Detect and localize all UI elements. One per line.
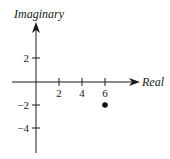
y-tick-label: 2 [24,52,30,64]
x-tick-label: 4 [79,87,85,99]
y-tick-label: −4 [17,122,29,134]
x-tick-label: 2 [56,87,62,99]
y-axis-label: Imaginary [13,7,65,21]
x-axis-label: Real [141,75,165,89]
data-point [102,102,108,108]
x-tick-label: 6 [102,87,108,99]
y-tick-label: −2 [17,99,29,111]
complex-plane-chart: 2 4 6 2 −2 −4 Real Imaginary [0,0,170,159]
